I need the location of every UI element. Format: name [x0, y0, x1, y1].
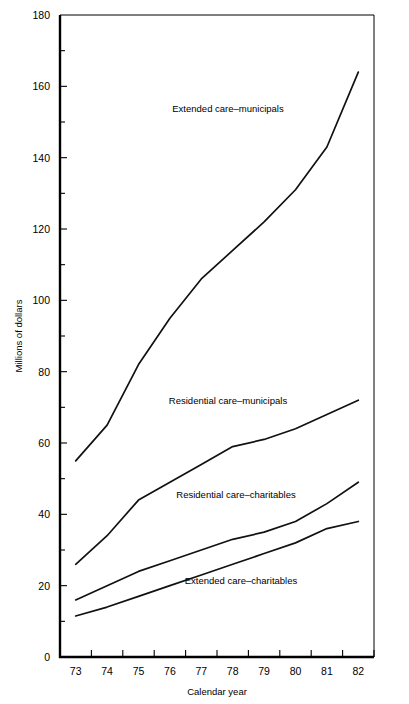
y-tick-label: 120 — [32, 223, 50, 235]
series-label-0: Extended care–municipals — [172, 103, 284, 114]
x-tick-label: 81 — [321, 665, 333, 677]
y-axis-title: Millions of dollars — [13, 299, 24, 372]
x-axis-title: Calendar year — [187, 686, 247, 697]
x-tick-label: 82 — [352, 665, 364, 677]
series-label-2: Residential care–charitables — [176, 489, 296, 500]
series-label-1: Residential care–municipals — [169, 395, 288, 406]
y-tick-label: 160 — [32, 80, 50, 92]
y-tick-label: 180 — [32, 9, 50, 21]
x-tick-label: 77 — [195, 665, 207, 677]
y-tick-label: 0 — [44, 651, 50, 663]
x-tick-label: 73 — [70, 665, 82, 677]
y-tick-label: 100 — [32, 294, 50, 306]
line-chart: 0204060801001201401601807374757677787980… — [0, 0, 409, 704]
x-tick-label: 74 — [101, 665, 113, 677]
series-line-1 — [76, 400, 359, 564]
x-tick-label: 79 — [258, 665, 270, 677]
y-tick-label: 20 — [38, 580, 50, 592]
x-tick-label: 76 — [164, 665, 176, 677]
x-tick-label: 75 — [133, 665, 145, 677]
y-tick-label: 140 — [32, 152, 50, 164]
y-tick-label: 60 — [38, 437, 50, 449]
chart-canvas: 0204060801001201401601807374757677787980… — [0, 0, 409, 704]
x-tick-label: 78 — [227, 665, 239, 677]
x-tick-label: 80 — [290, 665, 302, 677]
series-line-3 — [76, 521, 359, 616]
y-tick-label: 80 — [38, 366, 50, 378]
y-tick-label: 40 — [38, 508, 50, 520]
series-label-3: Extended care–charitables — [185, 575, 298, 586]
